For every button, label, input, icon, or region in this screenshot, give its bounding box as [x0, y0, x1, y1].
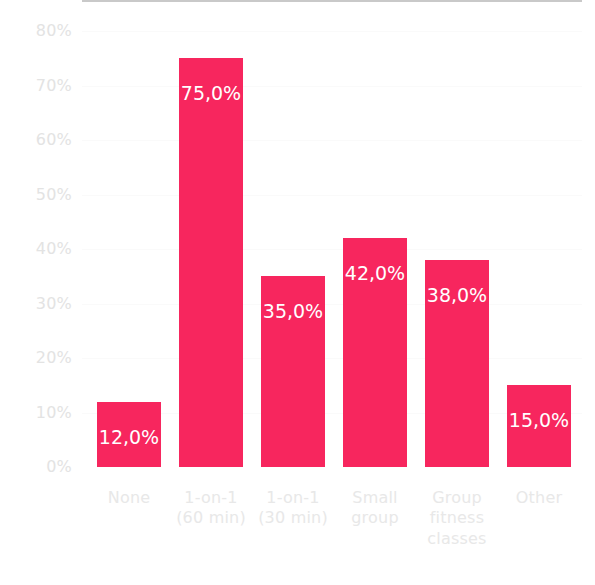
bar-value-label: 75,0% — [171, 84, 251, 103]
bar-value-label: 12,0% — [89, 428, 169, 447]
x-axis-category-label: Other — [494, 488, 584, 508]
x-axis-category-label: None — [84, 488, 174, 508]
bar-chart: 0%10%20%30%40%50%60%70%80% 12,0%75,0%35,… — [0, 0, 595, 585]
x-axis-category-label: 1-on-1 (30 min) — [248, 488, 338, 529]
x-axis-category-label: Small group — [330, 488, 420, 529]
bar-value-label: 35,0% — [253, 302, 333, 321]
x-axis-category-label: Group fitness classes — [412, 488, 502, 549]
bar-value-label: 15,0% — [499, 411, 579, 430]
bar-value-label: 42,0% — [335, 264, 415, 283]
bar-value-label: 38,0% — [417, 286, 497, 305]
bar[interactable] — [179, 58, 243, 467]
x-axis-category-label: 1-on-1 (60 min) — [166, 488, 256, 529]
